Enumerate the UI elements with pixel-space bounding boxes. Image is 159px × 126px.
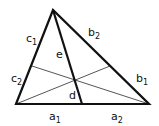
label-e: e bbox=[56, 48, 63, 61]
label-b2: b2 bbox=[88, 26, 100, 41]
label-a1: a1 bbox=[49, 110, 61, 125]
label-c1: c1 bbox=[26, 32, 37, 47]
triangle-diagram: c1 c2 b2 b1 a1 a2 e d bbox=[0, 0, 159, 126]
label-d: d bbox=[69, 89, 76, 102]
cevian-right bbox=[32, 66, 149, 104]
triangle-outline bbox=[16, 10, 149, 104]
label-c2: c2 bbox=[11, 72, 22, 87]
label-a2: a2 bbox=[111, 110, 123, 125]
label-b1: b1 bbox=[136, 72, 148, 87]
cevian-left bbox=[16, 66, 110, 104]
